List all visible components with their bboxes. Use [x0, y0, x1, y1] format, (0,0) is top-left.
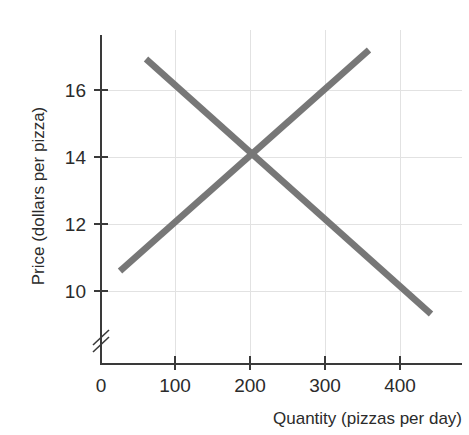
x-tick-label-300: 300 [309, 375, 341, 396]
x-tick-label-100: 100 [159, 375, 191, 396]
supply-demand-chart: 16 14 12 10 0 100 200 300 400 Quantity (… [0, 0, 469, 435]
x-tick-label-400: 400 [384, 375, 416, 396]
y-axis-title: Price (dollars per pizza) [29, 107, 48, 286]
y-tick-label-14: 14 [65, 147, 87, 168]
y-tick-label-12: 12 [65, 214, 86, 235]
x-axis-title: Quantity (pizzas per day) [273, 409, 462, 428]
x-tick-label-200: 200 [234, 375, 266, 396]
chart-canvas: 16 14 12 10 0 100 200 300 400 Quantity (… [0, 0, 469, 435]
y-tick-label-10: 10 [65, 281, 86, 302]
y-tick-label-16: 16 [65, 80, 86, 101]
x-tick-label-0: 0 [96, 375, 107, 396]
